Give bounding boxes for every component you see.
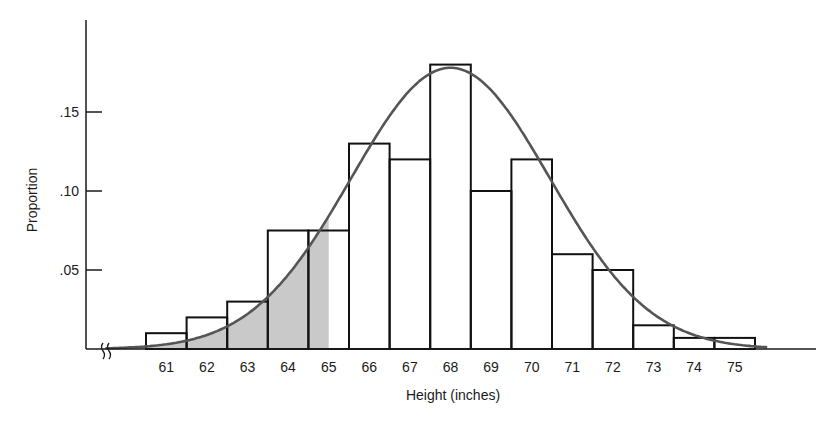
normal-curve-path bbox=[105, 68, 767, 349]
x-tick-label: 71 bbox=[565, 359, 581, 375]
x-tick-label: 61 bbox=[159, 359, 175, 375]
x-tick-label: 74 bbox=[686, 359, 702, 375]
y-ticks: .05.10.15 bbox=[60, 104, 102, 278]
histogram-bar-70 bbox=[511, 159, 552, 349]
x-tick-label: 65 bbox=[321, 359, 337, 375]
y-tick-label: .15 bbox=[60, 104, 80, 120]
histogram-chart: .05.10.15 616263646566676869707172737475… bbox=[0, 0, 833, 426]
x-tick-label: 70 bbox=[524, 359, 540, 375]
histogram-bar-67 bbox=[390, 159, 431, 349]
x-tick-label: 67 bbox=[402, 359, 418, 375]
axes bbox=[86, 20, 816, 359]
x-axis-label: Height (inches) bbox=[406, 387, 500, 403]
y-tick-label: .10 bbox=[60, 183, 80, 199]
x-tick-label: 68 bbox=[443, 359, 459, 375]
chart-canvas: .05.10.15 616263646566676869707172737475… bbox=[0, 0, 833, 426]
histogram-bar-72 bbox=[593, 270, 634, 349]
x-tick-label: 62 bbox=[199, 359, 215, 375]
x-tick-label: 75 bbox=[727, 359, 743, 375]
x-tick-label: 63 bbox=[240, 359, 256, 375]
histogram-bar-66 bbox=[349, 144, 390, 349]
x-tick-label: 72 bbox=[605, 359, 621, 375]
shaded-area bbox=[105, 216, 328, 349]
y-tick-label: .05 bbox=[60, 262, 80, 278]
x-tick-label: 69 bbox=[483, 359, 499, 375]
x-tick-label: 66 bbox=[362, 359, 378, 375]
y-axis-label: Proportion bbox=[24, 168, 40, 233]
histogram-bar-73 bbox=[633, 325, 674, 349]
axis-break-icon bbox=[102, 343, 111, 359]
histogram-bar-69 bbox=[471, 191, 512, 349]
histogram-bar-68 bbox=[430, 65, 471, 349]
histogram-bar-71 bbox=[552, 254, 593, 349]
x-tick-labels: 616263646566676869707172737475 bbox=[159, 359, 743, 375]
histogram-bars bbox=[146, 65, 755, 349]
x-tick-label: 64 bbox=[280, 359, 296, 375]
x-tick-label: 73 bbox=[646, 359, 662, 375]
normal-curve bbox=[105, 68, 767, 349]
shaded-region bbox=[105, 216, 328, 349]
